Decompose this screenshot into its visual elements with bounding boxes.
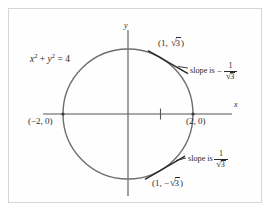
equation-equals: = [55, 54, 65, 64]
y-axis-label: y [124, 22, 128, 30]
slope-upper-radicand: 3 [230, 72, 235, 81]
upper-point-radical: √3 [170, 38, 181, 48]
equation-plus: + [37, 54, 47, 64]
slope-upper-numerator: 1 [227, 62, 235, 71]
leader-line-top [178, 67, 188, 69]
graph-canvas [0, 0, 273, 214]
point-label-right-intercept: (2, 0) [186, 117, 206, 126]
point-label-lower-tangency: (1, −√3) [152, 178, 183, 188]
slope-upper-denominator: √3 [224, 71, 237, 82]
x-axis-label: x [234, 101, 238, 109]
tangent-line-top [148, 51, 188, 74]
upper-point-prefix: (1, [158, 38, 170, 48]
slope-lower-denominator: √3 [214, 159, 227, 170]
upper-point-radicand: 3 [176, 37, 182, 48]
point-label-left-intercept: (−2, 0) [28, 117, 53, 126]
upper-point-suffix: ) [181, 38, 184, 48]
slope-upper-words: slope is [190, 67, 215, 75]
slope-lower-words: slope is [188, 155, 213, 163]
equation-rhs: 4 [65, 54, 70, 64]
slope-lower-fraction: 1 √3 [214, 150, 227, 169]
slope-annotation-upper: slope is − 1 √3 [190, 62, 237, 81]
slope-upper-denominator-radical: √3 [226, 72, 235, 81]
circle-equation-label: x2 + y2 = 4 [30, 55, 70, 65]
lower-point-radicand: 3 [175, 177, 181, 188]
lower-point-radical: √3 [169, 178, 180, 188]
slope-upper-fraction: 1 √3 [224, 62, 237, 81]
slope-upper-sign: − [216, 67, 222, 76]
slope-lower-radicand: 3 [221, 160, 226, 169]
slope-lower-numerator: 1 [217, 150, 225, 159]
lower-point-suffix: ) [180, 178, 183, 188]
figure-container: y x x2 + y2 = 4 (−2, 0) (2, 0) (1, √3) (… [0, 0, 273, 214]
slope-lower-denominator-radical: √3 [216, 160, 225, 169]
point-marker-left [61, 112, 64, 115]
lower-point-prefix: (1, − [152, 178, 169, 188]
point-label-upper-tangency: (1, √3) [158, 38, 184, 48]
slope-annotation-lower: slope is 1 √3 [188, 150, 228, 169]
